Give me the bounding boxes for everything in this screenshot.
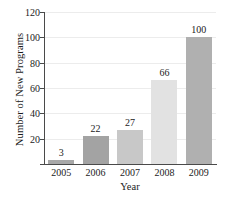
plot-area: 3222766100 [44,12,216,164]
bar-slot: 66 [147,12,181,164]
y-tick-label: 40 [14,108,40,119]
bar-chart: Number of New Programs 20406080100120 32… [0,0,227,199]
x-tick-label: 2005 [44,167,78,178]
bar-series: 3222766100 [44,12,216,164]
y-tick-label: 60 [14,83,40,94]
bar-slot: 22 [79,12,113,164]
bar-value-label: 3 [44,147,78,158]
bar[interactable] [151,80,177,164]
bar[interactable] [48,160,74,164]
x-axis-title: Year [44,181,216,192]
x-axis-line [43,164,217,165]
bar-slot: 100 [182,12,216,164]
y-tick-label: 120 [14,7,40,18]
bar[interactable] [83,136,109,164]
x-tick-label: 2008 [147,167,181,178]
x-tick-label: 2007 [113,167,147,178]
bar-value-label: 27 [113,117,147,128]
bar-slot: 3 [44,12,78,164]
x-axis-tick-labels: 20052006200720082009 [44,167,216,181]
bar-value-label: 100 [182,24,216,35]
bar[interactable] [117,130,143,164]
bar-value-label: 66 [147,67,181,78]
y-axis-tick-labels: 20406080100120 [14,0,40,199]
bar[interactable] [186,37,212,164]
y-tick-label: 20 [14,133,40,144]
bar-value-label: 22 [79,123,113,134]
x-tick-label: 2006 [79,167,113,178]
bar-slot: 27 [113,12,147,164]
y-tick-mark [40,164,44,165]
y-tick-label: 100 [14,32,40,43]
y-tick-label: 80 [14,57,40,68]
x-tick-label: 2009 [182,167,216,178]
